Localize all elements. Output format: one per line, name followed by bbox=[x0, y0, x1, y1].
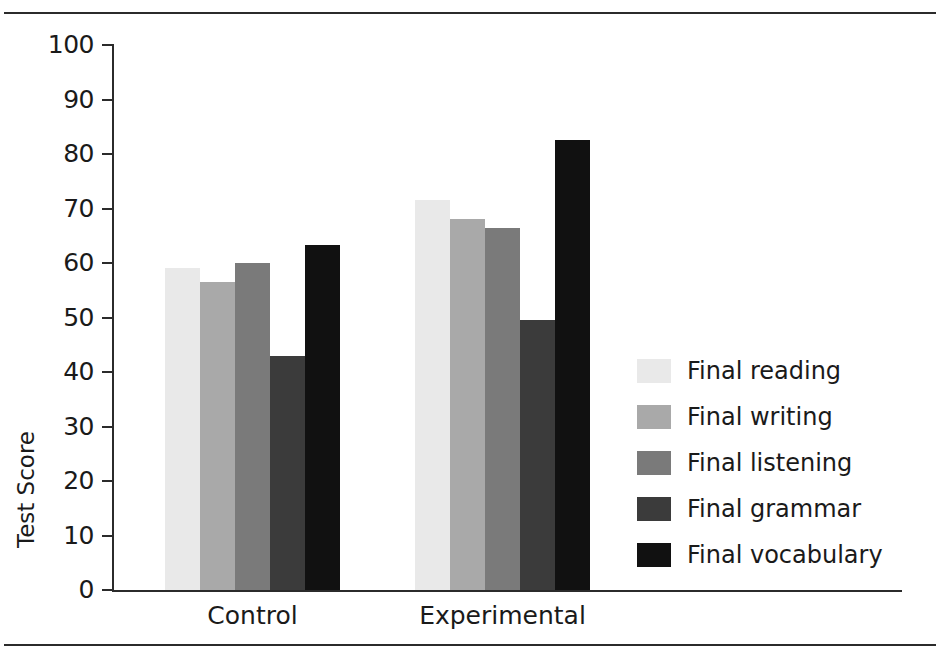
legend-label: Final grammar bbox=[687, 496, 861, 522]
x-axis-line bbox=[112, 590, 902, 592]
y-axis-tick-label: 10 bbox=[34, 523, 94, 548]
bar-control-final-vocabulary bbox=[305, 245, 340, 590]
y-axis-tick bbox=[102, 262, 113, 264]
y-axis-tick-label: 60 bbox=[34, 250, 94, 275]
y-axis-tick-label: 50 bbox=[34, 305, 94, 330]
y-axis-tick bbox=[102, 589, 113, 591]
legend-item-final-grammar: Final grammar bbox=[637, 486, 883, 532]
legend-swatch-icon bbox=[637, 405, 671, 429]
y-axis-tick-label: 90 bbox=[34, 87, 94, 112]
legend-label: Final writing bbox=[687, 404, 833, 430]
bar-experimental-final-vocabulary bbox=[555, 140, 590, 590]
legend-swatch-icon bbox=[637, 451, 671, 475]
bar-experimental-final-reading bbox=[415, 200, 450, 590]
bar-experimental-final-grammar bbox=[520, 320, 555, 590]
figure-container: 0102030405060708090100 Test Score Contro… bbox=[0, 0, 940, 664]
legend-item-final-reading: Final reading bbox=[637, 348, 883, 394]
y-axis-tick-label: 30 bbox=[34, 414, 94, 439]
x-axis-label-control: Control bbox=[110, 602, 395, 630]
y-axis-tick bbox=[102, 99, 113, 101]
bar-control-final-writing bbox=[200, 282, 235, 590]
y-axis-tick-label: 20 bbox=[34, 468, 94, 493]
legend-item-final-writing: Final writing bbox=[637, 394, 883, 440]
y-axis-tick bbox=[102, 208, 113, 210]
y-axis-tick bbox=[102, 317, 113, 319]
legend-label: Final listening bbox=[687, 450, 852, 476]
y-axis-tick bbox=[102, 480, 113, 482]
legend-swatch-icon bbox=[637, 543, 671, 567]
y-axis-tick-label: 80 bbox=[34, 141, 94, 166]
legend-swatch-icon bbox=[637, 497, 671, 521]
y-axis-tick-label: 70 bbox=[34, 196, 94, 221]
bar-experimental-final-writing bbox=[450, 219, 485, 590]
y-axis-tick-label: 100 bbox=[34, 32, 94, 57]
y-axis-label: Test Score bbox=[15, 420, 38, 560]
y-axis-tick-label: 0 bbox=[34, 577, 94, 602]
chart-legend: Final readingFinal writingFinal listenin… bbox=[637, 348, 883, 578]
bar-control-final-grammar bbox=[270, 356, 305, 590]
y-axis-tick bbox=[102, 153, 113, 155]
y-axis-tick bbox=[102, 535, 113, 537]
bar-control-final-listening bbox=[235, 263, 270, 590]
y-axis-tick bbox=[102, 426, 113, 428]
x-axis-label-experimental: Experimental bbox=[360, 602, 645, 630]
legend-item-final-vocabulary: Final vocabulary bbox=[637, 532, 883, 578]
bar-control-final-reading bbox=[165, 268, 200, 590]
bar-experimental-final-listening bbox=[485, 228, 520, 590]
y-axis-tick bbox=[102, 44, 113, 46]
y-axis-tick bbox=[102, 371, 113, 373]
y-axis-tick-label: 40 bbox=[34, 359, 94, 384]
legend-swatch-icon bbox=[637, 359, 671, 383]
legend-label: Final vocabulary bbox=[687, 542, 883, 568]
legend-label: Final reading bbox=[687, 358, 841, 384]
legend-item-final-listening: Final listening bbox=[637, 440, 883, 486]
